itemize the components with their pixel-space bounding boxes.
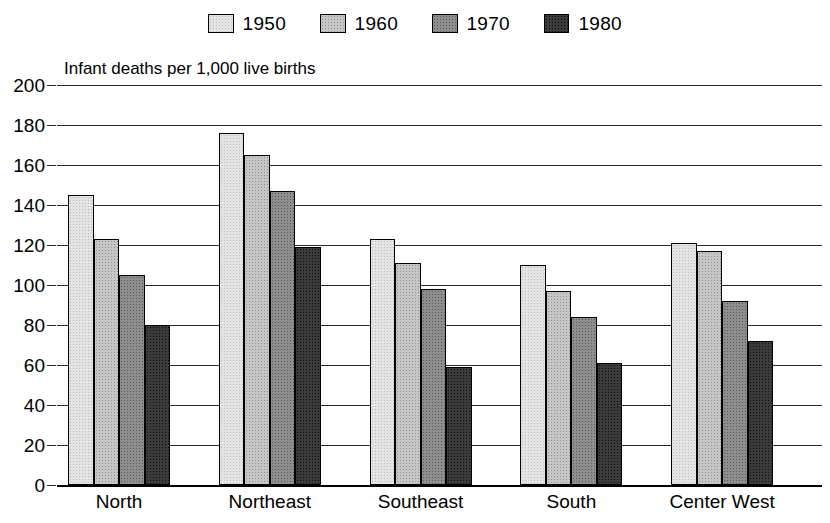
legend-label: 1980 [578, 14, 621, 33]
chart-title: Infant deaths per 1,000 live births [64, 60, 315, 77]
bar[interactable] [244, 155, 270, 485]
legend-swatch [208, 14, 234, 33]
legend-label: 1970 [467, 14, 510, 33]
plot-area: 020406080100120140160180200NorthNortheas… [57, 85, 822, 485]
y-axis-tick-mark [47, 405, 56, 406]
y-axis-tick-mark [47, 485, 56, 486]
legend-item: 1950 [208, 14, 286, 33]
bar-group: North [68, 85, 170, 485]
bar[interactable] [446, 367, 472, 485]
y-axis-tick-label: 0 [34, 476, 45, 495]
bar[interactable] [597, 363, 623, 485]
bar[interactable] [546, 291, 572, 485]
bar[interactable] [722, 301, 748, 485]
bar[interactable] [370, 239, 396, 485]
bar[interactable] [219, 133, 245, 485]
y-axis-tick-label: 160 [13, 156, 45, 175]
bar[interactable] [145, 325, 171, 485]
legend-swatch [320, 14, 346, 33]
y-axis-tick-label: 20 [24, 436, 45, 455]
y-axis-tick-mark [47, 85, 56, 86]
bar[interactable] [697, 251, 723, 485]
bar-group: Northeast [219, 85, 321, 485]
y-axis-tick-label: 180 [13, 116, 45, 135]
x-axis-category-label: Southeast [378, 492, 464, 511]
bar[interactable] [68, 195, 94, 485]
y-axis-tick-label: 200 [13, 76, 45, 95]
chart-legend: 1950196019701980 [0, 8, 830, 38]
bar[interactable] [119, 275, 145, 485]
bar-group: South [520, 85, 622, 485]
y-axis-tick-mark [47, 285, 56, 286]
legend-item: 1960 [320, 14, 398, 33]
legend-swatch [432, 14, 458, 33]
y-axis-tick-label: 60 [24, 356, 45, 375]
x-axis-category-label: Center West [670, 492, 775, 511]
bar-group: Southeast [370, 85, 472, 485]
y-axis-tick-mark [47, 165, 56, 166]
bar[interactable] [421, 289, 447, 485]
bar[interactable] [295, 247, 321, 485]
gridline [57, 485, 822, 487]
bar[interactable] [94, 239, 120, 485]
y-axis-tick-label: 80 [24, 316, 45, 335]
legend-label: 1960 [355, 14, 398, 33]
bar[interactable] [671, 243, 697, 485]
bar-chart: Infant deaths per 1,000 live births 0204… [0, 56, 830, 523]
y-axis-tick-label: 120 [13, 236, 45, 255]
y-axis-tick-mark [47, 445, 56, 446]
x-axis-category-label: South [547, 492, 597, 511]
x-axis-category-label: North [96, 492, 142, 511]
y-axis-tick-mark [47, 245, 56, 246]
bar[interactable] [270, 191, 296, 485]
y-axis-tick-mark [47, 365, 56, 366]
legend-item: 1980 [544, 14, 622, 33]
bar[interactable] [748, 341, 774, 485]
bar[interactable] [395, 263, 421, 485]
y-axis-tick-mark [47, 325, 56, 326]
y-axis-tick-mark [47, 205, 56, 206]
legend-label: 1950 [243, 14, 286, 33]
bar[interactable] [571, 317, 597, 485]
y-axis-tick-label: 140 [13, 196, 45, 215]
legend-item: 1970 [432, 14, 510, 33]
y-axis-tick-label: 40 [24, 396, 45, 415]
bar-group: Center West [671, 85, 773, 485]
legend-swatch [544, 14, 570, 33]
y-axis-tick-mark [47, 125, 56, 126]
bar[interactable] [520, 265, 546, 485]
y-axis-tick-label: 100 [13, 276, 45, 295]
x-axis-category-label: Northeast [229, 492, 311, 511]
